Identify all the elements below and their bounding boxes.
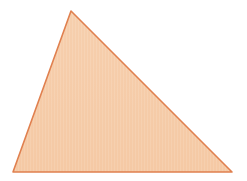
figure-svg xyxy=(0,0,247,181)
figure-canvas xyxy=(0,0,247,181)
